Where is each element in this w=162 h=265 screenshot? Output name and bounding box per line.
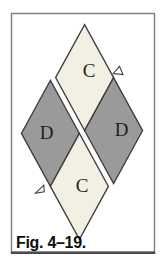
seam-notch-bottom-icon [36, 185, 45, 193]
patch-label-right-d: D [115, 119, 129, 140]
patch-label-top-c: C [83, 60, 96, 81]
quilt-block-figure: C D D C Fig. 4–19. [0, 0, 162, 265]
patch-label-bottom-c: C [76, 175, 89, 196]
patch-label-left-d: D [40, 122, 54, 143]
figure-caption: Fig. 4–19. [16, 234, 86, 251]
seam-notch-top-icon [113, 66, 123, 74]
